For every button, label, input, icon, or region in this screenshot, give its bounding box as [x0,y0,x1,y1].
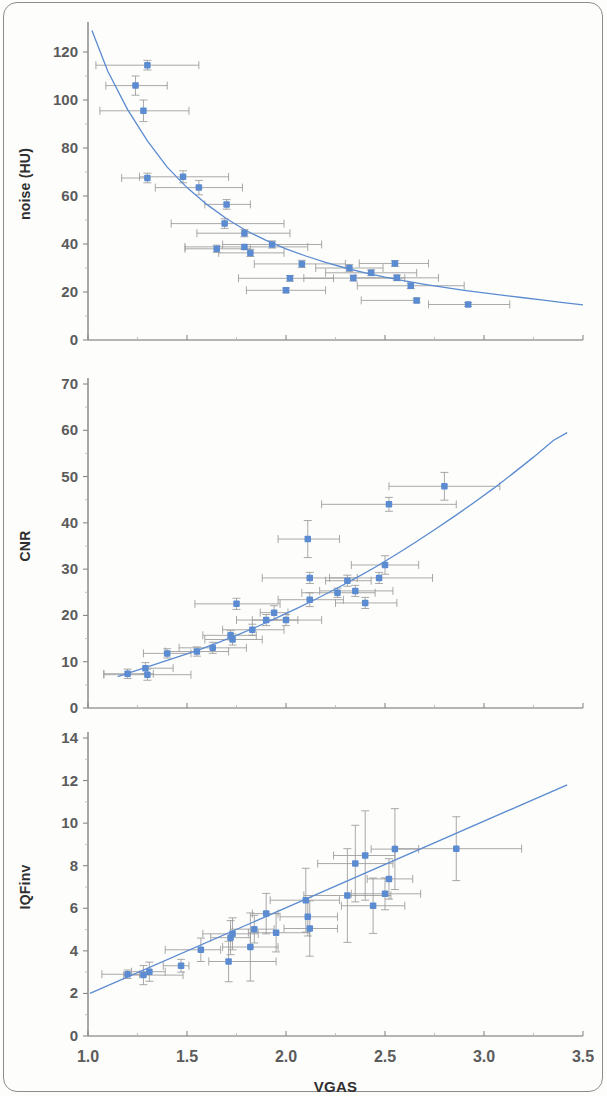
panel-cnr: 010203040506070CNR [0,362,607,720]
iqfinv-scatter-plot: 024681012141.01.52.02.53.03.5IQFinvVGAS [0,718,607,1096]
y-tick-label: 60 [61,421,78,438]
data-point-marker [407,283,414,290]
y-tick-label: 40 [61,514,78,531]
data-point-marker [344,577,351,584]
data-point-marker [124,670,131,677]
x-tick-label: 1.5 [176,1048,198,1065]
noise-scatter-plot: 020406080100120noise (HU) [0,0,607,368]
data-point-marker [180,174,187,181]
data-point-marker [249,627,256,634]
data-point-marker [413,297,420,304]
panel-noise: 020406080100120noise (HU) [0,0,607,368]
y-axis-title: CNR [17,531,33,562]
x-tick-label: 3.0 [473,1048,495,1065]
data-point-marker [382,891,389,898]
data-point-marker [198,947,205,954]
data-point-marker [241,244,248,251]
data-point-marker [194,648,201,655]
data-point-marker [307,925,314,932]
data-point-marker [140,108,147,115]
figure-container: 020406080100120noise (HU) 01020304050607… [0,0,607,1096]
y-tick-label: 120 [53,43,78,60]
data-point-marker [303,897,310,904]
trend-line [90,785,567,994]
y-tick-label: 100 [53,91,78,108]
data-point-marker [229,931,236,938]
x-tick-label: 2.5 [374,1048,396,1065]
data-point-marker [144,671,151,678]
data-point-marker [344,892,351,899]
y-tick-label: 6 [70,899,78,916]
x-tick-label: 1.0 [77,1048,99,1065]
data-point-marker [221,220,228,227]
data-point-marker [453,845,460,852]
data-point-marker [247,944,254,951]
data-point-marker [376,575,383,582]
y-axis-title: noise (HU) [17,148,33,220]
data-point-marker [225,958,232,965]
data-point-marker [229,636,236,643]
data-point-marker [263,617,270,624]
data-point-marker [140,972,147,979]
x-tick-label: 3.5 [572,1048,594,1065]
data-point-marker [362,852,369,859]
x-axis-title: VGAS [314,1078,357,1095]
data-point-marker [142,665,149,672]
x-tick-label: 2.0 [275,1048,297,1065]
data-point-marker [465,301,472,308]
y-tick-label: 10 [61,814,78,831]
data-point-marker [305,914,312,921]
y-axis-title: IQFinv [17,865,33,910]
y-tick-label: 0 [70,331,78,348]
data-point-marker [223,201,230,208]
data-point-marker [269,241,276,248]
y-tick-label: 20 [61,283,78,300]
y-tick-label: 12 [61,772,78,789]
data-point-marker [394,275,401,282]
data-point-marker [370,902,377,909]
y-tick-label: 2 [70,984,78,1001]
data-point-marker [386,876,393,883]
data-point-marker [334,589,341,596]
y-tick-label: 0 [70,1027,78,1044]
y-tick-label: 30 [61,560,78,577]
data-point-marker [350,275,357,282]
data-point-marker [124,971,131,978]
data-point-marker [178,963,185,970]
y-tick-label: 60 [61,187,78,204]
y-tick-label: 20 [61,606,78,623]
y-tick-label: 70 [61,375,78,392]
data-point-marker [368,270,375,277]
data-point-marker [283,287,290,294]
data-point-marker [241,230,248,237]
y-tick-label: 14 [61,729,78,746]
y-tick-label: 4 [70,942,79,959]
data-point-marker [146,968,153,975]
data-point-marker [362,600,369,607]
data-point-marker [196,184,203,191]
data-point-marker [144,62,151,68]
y-tick-label: 80 [61,139,78,156]
data-point-marker [247,250,254,257]
y-tick-label: 0 [70,699,78,716]
y-tick-label: 40 [61,235,78,252]
data-point-marker [305,536,312,543]
data-point-marker [209,645,216,652]
y-tick-label: 10 [61,653,78,670]
data-point-marker [144,175,151,182]
data-point-marker [263,910,270,917]
data-point-marker [271,609,278,616]
data-point-marker [273,930,280,937]
data-point-marker [382,562,389,569]
data-point-marker [233,601,240,608]
trend-line [118,433,567,677]
y-tick-label: 8 [70,857,78,874]
panel-iqfinv: 024681012141.01.52.02.53.03.5IQFinvVGAS [0,718,607,1096]
data-point-marker [251,926,258,933]
data-point-marker [346,265,353,272]
cnr-scatter-plot: 010203040506070CNR [0,362,607,720]
data-point-marker [441,483,448,490]
data-point-marker [132,82,139,89]
data-point-marker [299,261,306,268]
data-point-marker [213,246,220,253]
